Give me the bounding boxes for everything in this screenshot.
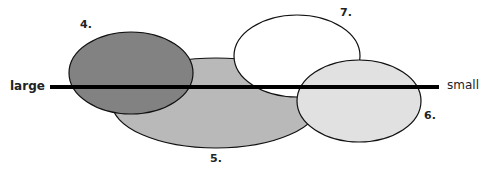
ellipse-6 [297,60,421,142]
axis-left-label: large [10,79,45,93]
ellipse-6-label: 6. [424,109,436,122]
ellipse-7-label: 7. [340,6,352,19]
diagram-canvas [0,0,486,171]
ellipse-4-label: 4. [80,18,92,31]
ellipse-4 [69,32,193,114]
diagram: large small 4. 5. 6. 7. [0,0,486,171]
ellipse-5-label: 5. [210,152,222,165]
axis-right-label: small [447,78,479,92]
